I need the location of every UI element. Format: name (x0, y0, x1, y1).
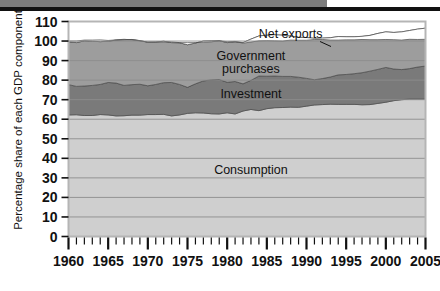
series-label-net-exports: Net exports (259, 27, 323, 41)
x-tick-label-2005: 2005 (410, 253, 440, 269)
y-tick-label-50: 50 (42, 131, 58, 147)
y-tick-label-10: 10 (42, 209, 58, 225)
y-tick-label-100: 100 (34, 33, 58, 49)
x-tick-label-1975: 1975 (172, 253, 203, 269)
y-tick-label-40: 40 (42, 150, 58, 166)
x-tick-label-1960: 1960 (53, 253, 84, 269)
series-label-investment: Investment (220, 87, 282, 101)
x-tick-label-1970: 1970 (132, 253, 163, 269)
x-tick-label-1965: 1965 (93, 253, 124, 269)
series-label-government: Government (217, 49, 286, 63)
y-tick-label-60: 60 (42, 111, 58, 127)
x-tick-label-1990: 1990 (291, 253, 322, 269)
y-tick-label-20: 20 (42, 189, 58, 205)
chart-svg: 0102030405060708090100110196019651970197… (0, 0, 440, 291)
y-tick-label-0: 0 (50, 229, 58, 245)
series-label-consumption: Consumption (214, 163, 288, 177)
series-label-purchases: purchases (222, 62, 280, 76)
y-tick-label-110: 110 (35, 14, 58, 30)
x-tick-label-1995: 1995 (331, 253, 362, 269)
y-tick-label-80: 80 (42, 72, 58, 88)
gdp-area-chart-figure: Percentage share of each GDP component 0… (0, 0, 440, 291)
y-tick-label-30: 30 (42, 170, 58, 186)
y-tick-label-90: 90 (42, 53, 58, 69)
x-tick-label-1980: 1980 (212, 253, 243, 269)
x-tick-label-2000: 2000 (370, 253, 401, 269)
x-tick-label-1985: 1985 (251, 253, 282, 269)
y-tick-label-70: 70 (42, 92, 58, 108)
